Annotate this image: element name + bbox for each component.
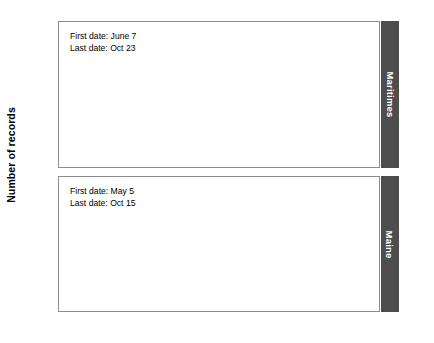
bars-maritimes	[59, 22, 379, 167]
plot-area-maine: First date: May 5 Last date: Oct 15	[59, 177, 379, 311]
strip-label-maritimes: Maritimes	[381, 21, 399, 168]
y-axis-title-text: Number of records	[5, 107, 17, 203]
panel-maine: First date: May 5 Last date: Oct 15	[58, 176, 380, 312]
x-axis	[58, 312, 380, 342]
panel-maritimes: First date: June 7 Last date: Oct 23	[58, 21, 380, 168]
histogram-figure: Number of records First date: June 7 Las…	[0, 0, 434, 343]
bars-maine	[59, 177, 379, 311]
plot-area-maritimes: First date: June 7 Last date: Oct 23	[59, 22, 379, 167]
y-axis-title: Number of records	[2, 0, 20, 310]
strip-label-maine: Maine	[381, 176, 399, 312]
strip-label-maritimes-text: Maritimes	[385, 71, 396, 117]
strip-label-maine-text: Maine	[385, 230, 396, 258]
